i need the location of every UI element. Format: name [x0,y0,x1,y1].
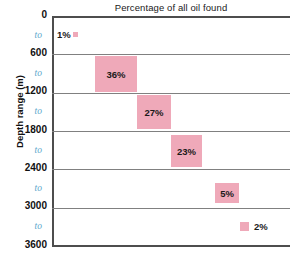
bar-annotation-0-600: 1% [57,29,78,40]
y-tick-label-1800: 1800 [2,124,47,135]
gridline-0 [52,16,290,18]
y-band-separator-2: to [2,68,42,78]
y-tick-label-1200: 1200 [2,85,47,96]
y-band-separator-6: to [2,221,42,231]
gridline-1800 [52,131,290,132]
bar-1800-2400: 23% [171,135,202,167]
y-band-separator-5: to [2,183,42,193]
gridline-2400 [52,169,290,170]
bar-label-27-percent: 27% [144,107,163,118]
bar-annotation-3000-3600: 2% [240,221,268,232]
bar-label-2-percent: 2% [254,221,268,232]
bar-label-23-percent: 23% [177,146,196,157]
bar-label-5-percent: 5% [220,188,234,199]
bar-label-1-percent: 1% [57,29,71,40]
y-band-separator-1: to [2,30,42,40]
bar-label-36-percent: 36% [106,69,125,80]
chart-container: Percentage of all oil found Depth range … [0,0,299,257]
gridline-3600 [52,245,290,247]
y-tick-label-0: 0 [2,9,47,20]
bar-swatch-icon-1-percent [73,32,78,37]
bar-2400-3000: 5% [215,183,239,203]
gridline-1200 [52,93,290,94]
gridline-600 [52,54,290,55]
bar-600-1200: 36% [95,56,137,92]
plot-area: 1% 36% 27% 23% 5% 2% [52,16,290,246]
y-tick-label-3000: 3000 [2,200,47,211]
bar-swatch-icon-2-percent [240,222,249,231]
gridline-3000 [52,208,290,209]
y-band-separator-4: to [2,145,42,155]
bar-1200-1800: 27% [137,95,171,129]
y-band-separator-3: to [2,106,42,116]
y-tick-label-600: 600 [2,47,47,58]
chart-title: Percentage of all oil found [52,2,290,13]
y-tick-label-2400: 2400 [2,162,47,173]
y-tick-label-3600: 3600 [2,239,47,250]
